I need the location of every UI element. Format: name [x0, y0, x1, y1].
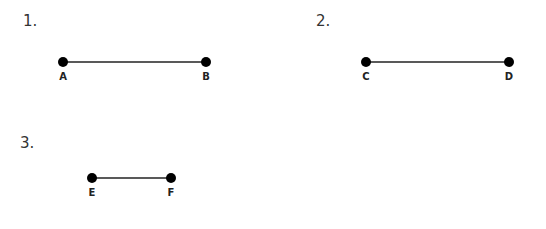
point-c	[361, 57, 371, 67]
point-c-label: C	[362, 71, 369, 82]
point-a-label: A	[59, 71, 67, 82]
point-b	[201, 57, 211, 67]
segment-ab: A B	[58, 57, 211, 82]
segment-ef: E F	[87, 173, 176, 198]
point-a	[58, 57, 68, 67]
point-d-label: D	[505, 71, 513, 82]
point-e	[87, 173, 97, 183]
point-f	[166, 173, 176, 183]
segments-diagram: A B C D E F	[0, 0, 546, 229]
segment-cd: C D	[361, 57, 514, 82]
point-b-label: B	[202, 71, 210, 82]
point-f-label: F	[168, 187, 175, 198]
point-d	[504, 57, 514, 67]
point-e-label: E	[89, 187, 96, 198]
